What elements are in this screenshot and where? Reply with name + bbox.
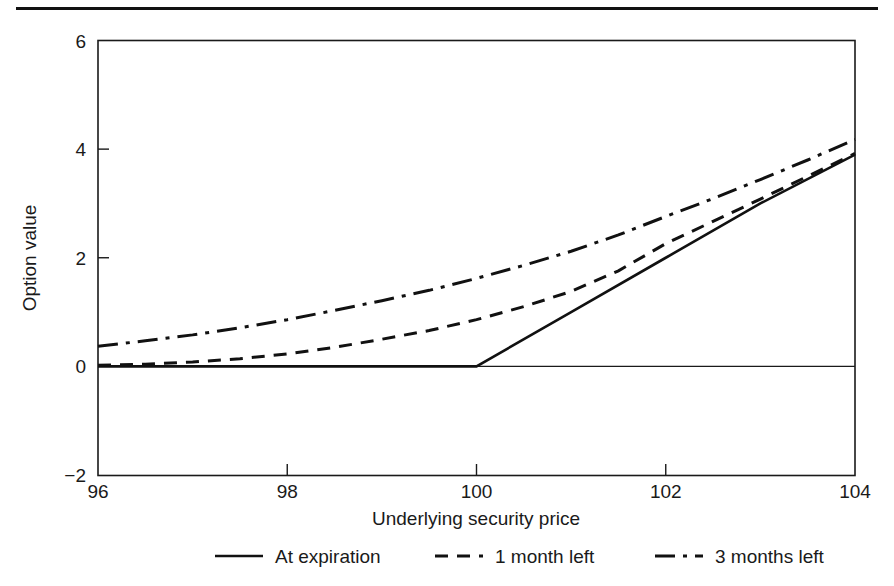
x-tick-label: 104 [839, 481, 871, 502]
series-line-1-month-left [98, 153, 855, 365]
x-tick-label: 98 [277, 481, 298, 502]
series-line-at-expiration [98, 155, 855, 367]
x-tick-label: 102 [650, 481, 682, 502]
x-axis-title: Underlying security price [372, 508, 580, 529]
top-divider-rule [16, 7, 878, 10]
y-tick-label: 0 [75, 356, 86, 377]
y-tick-label: 2 [75, 248, 86, 269]
legend-label: At expiration [275, 546, 381, 567]
series-line-3-months-left [98, 139, 855, 346]
option-value-line-chart: 9698100102104 −20246 Option value Underl… [0, 0, 894, 586]
plot-frame [98, 41, 855, 476]
legend-label: 1 month left [495, 546, 595, 567]
y-axis-ticks: −20246 [64, 31, 109, 487]
x-tick-label: 96 [87, 481, 108, 502]
legend-label: 3 months left [715, 546, 824, 567]
x-axis-ticks: 9698100102104 [87, 464, 871, 502]
y-tick-label: 6 [75, 31, 86, 52]
x-tick-label: 100 [461, 481, 493, 502]
y-tick-label: −2 [64, 465, 86, 486]
chart-figure: 9698100102104 −20246 Option value Underl… [0, 0, 894, 586]
series-group [98, 139, 855, 366]
y-tick-label: 4 [75, 139, 86, 160]
chart-legend: At expiration1 month left3 months left [215, 546, 824, 567]
y-axis-title: Option value [19, 205, 40, 312]
